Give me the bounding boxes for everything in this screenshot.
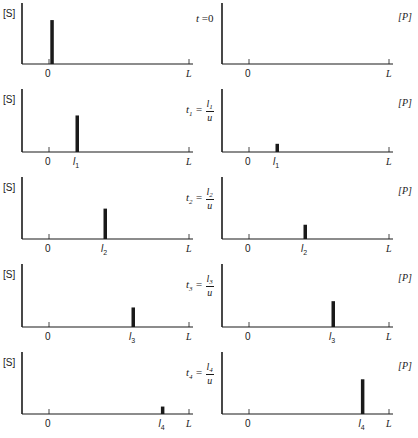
x-origin-label: 0 [245, 331, 251, 343]
position-label: l3 [129, 331, 135, 344]
p-axis-label: [P] [398, 97, 412, 109]
p-panel [222, 3, 393, 64]
product-bar [332, 301, 336, 327]
substrate-bar [132, 307, 136, 327]
p-axis-label: [P] [398, 185, 412, 197]
x-end-label: L [386, 243, 392, 255]
position-label: l1 [73, 156, 79, 169]
s-axis-label: [S] [3, 269, 15, 281]
time-label: t4 = l4u [186, 361, 214, 386]
product-bar [304, 225, 308, 239]
substrate-bar [76, 115, 80, 152]
x-end-label: L [386, 156, 392, 168]
x-origin-label: 0 [45, 243, 51, 255]
x-end-label: L [386, 331, 392, 343]
x-end-label: L [386, 68, 392, 80]
x-origin-label: 0 [45, 418, 51, 430]
x-origin-label: 0 [245, 418, 251, 430]
p-panel [222, 352, 393, 414]
time-label: t2 = l2u [186, 186, 214, 211]
position-label: l4 [158, 418, 164, 431]
x-origin-label: 0 [245, 243, 251, 255]
position-label: l3 [329, 331, 335, 344]
p-panel [222, 264, 393, 327]
x-origin-label: 0 [45, 68, 51, 80]
s-axis-label: [S] [3, 357, 15, 369]
x-origin-label: 0 [245, 68, 251, 80]
time-label: t1 = l1u [186, 98, 214, 123]
s-panel [22, 352, 193, 414]
p-axis-label: [P] [398, 272, 412, 284]
s-panel [22, 177, 193, 239]
x-end-label: L [386, 418, 392, 430]
x-end-label: L [186, 68, 192, 80]
substrate-bar [104, 209, 108, 239]
substrate-bar [50, 20, 54, 64]
p-axis-label: [P] [398, 11, 412, 23]
s-panel [22, 3, 193, 64]
position-label: l4 [358, 418, 364, 431]
p-panel [222, 89, 393, 152]
position-label: l2 [301, 243, 307, 256]
position-label: l2 [101, 243, 107, 256]
x-end-label: L [186, 331, 192, 343]
time-label: t =0 [196, 12, 214, 24]
p-axis-label: [P] [398, 360, 412, 372]
product-bar [361, 379, 365, 414]
x-origin-label: 0 [45, 331, 51, 343]
product-bar [276, 144, 280, 152]
s-panel [22, 89, 193, 152]
x-end-label: L [186, 243, 192, 255]
substrate-bar [161, 407, 165, 414]
x-end-label: L [186, 418, 192, 430]
s-axis-label: [S] [3, 182, 15, 194]
s-axis-label: [S] [3, 94, 15, 106]
x-origin-label: 0 [245, 156, 251, 168]
p-panel [222, 177, 393, 239]
position-label: l1 [273, 156, 279, 169]
time-label: t3 = l3u [186, 273, 214, 298]
s-axis-label: [S] [3, 8, 15, 20]
x-origin-label: 0 [45, 156, 51, 168]
x-end-label: L [186, 156, 192, 168]
s-panel [22, 264, 193, 327]
